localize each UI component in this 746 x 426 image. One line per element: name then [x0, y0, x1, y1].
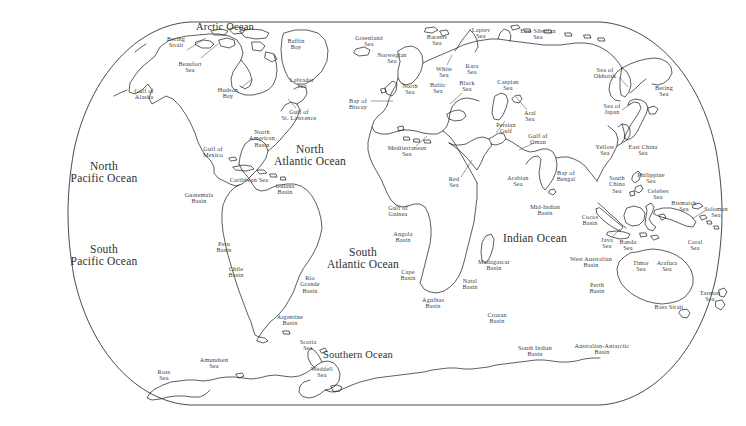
label-peru-basin: PeruBasin	[216, 241, 231, 254]
label-line: Sea	[300, 345, 317, 351]
label-line: Southern Ocean	[323, 349, 393, 360]
label-caribbean-sea: Caribbean Sea	[230, 177, 269, 183]
label-yellow-sea: YellowSea	[596, 144, 615, 157]
label-guiana-basin: GuianaBasin	[275, 183, 294, 196]
label-line: Basin	[462, 284, 477, 290]
label-line: Indian Ocean	[503, 232, 567, 244]
label-ross-sea: RossSea	[158, 369, 171, 382]
label-gulf-of-st-lawrence: Gulf ofSt. Lawrence	[281, 109, 316, 122]
label-line: Sea	[497, 85, 518, 91]
label-line: Sea	[700, 296, 720, 302]
label-caspian-sea: CaspianSea	[497, 79, 518, 92]
label-line: Basin	[575, 349, 630, 355]
label-baltic-sea: BalticSea	[430, 82, 446, 95]
label-line: Sea	[620, 245, 637, 251]
label-north-american-basin: NorthAmericanBasin	[249, 129, 275, 148]
label-east-siberian-sea: East SiberianSea	[520, 28, 555, 41]
label-labrador-sea: LabradorSea	[290, 77, 314, 90]
label-indian-ocean: Indian Ocean	[503, 232, 567, 244]
label-scotia-sea: ScotiaSea	[300, 339, 317, 352]
label-sea-of-okhotsk: Sea ofOkhotsk	[594, 67, 616, 80]
label-line: Sea	[657, 266, 678, 272]
label-argentine-basin: ArgentineBasin	[277, 314, 303, 327]
label-line: Sea	[704, 212, 728, 218]
label-line: Guinea	[388, 211, 407, 217]
label-line: Sea	[671, 206, 696, 212]
label-west-australian-basin: West AustralianBasin	[570, 256, 612, 269]
world-map: Arctic OceanNorthPacific OceanSouthPacif…	[0, 0, 746, 426]
label-line: Basin	[530, 210, 560, 216]
label-line: Basin	[400, 275, 415, 281]
label-line: Sea	[430, 88, 446, 94]
label-arctic-ocean: Arctic Ocean	[196, 21, 254, 32]
label-line: Sea	[629, 150, 658, 156]
label-line: Sea	[648, 194, 669, 200]
label-line: Biscay	[349, 104, 367, 110]
label-laptev-sea: LaptevSea	[472, 27, 490, 40]
label-black-sea: BlackSea	[459, 80, 474, 93]
label-line: Bay	[288, 44, 305, 50]
label-line: Oman	[528, 139, 547, 145]
label-tasman-sea: TasmanSea	[700, 290, 720, 303]
label-bering-sea: BeringSea	[655, 85, 673, 98]
label-java-sea: JavaSea	[601, 237, 613, 250]
label-line: Sea	[601, 243, 613, 249]
label-line: Basin	[582, 220, 598, 226]
label-line: St. Lawrence	[281, 115, 316, 121]
label-bass-strait: Bass Strait	[655, 304, 684, 310]
label-rio-grande-basin: RioGrandeBasin	[300, 275, 319, 294]
label-cocos-basin: CocosBasin	[582, 214, 598, 227]
label-line: Sea	[158, 375, 171, 381]
label-line: Basin	[518, 351, 552, 357]
label-coral-sea: CoralSea	[688, 239, 703, 252]
label-baffin-bay: BaffinBay	[288, 38, 305, 51]
label-gulf-of-guinea: Gulf ofGuinea	[388, 205, 407, 218]
label-line: Sea	[388, 151, 427, 157]
label-line: Basin	[249, 141, 275, 147]
label-line: Basin	[275, 189, 294, 195]
label-line: Sea	[436, 72, 452, 78]
label-line: North	[71, 160, 138, 172]
label-perth-basin: PerthBasin	[589, 282, 604, 295]
label-line: Sea	[311, 372, 333, 378]
label-banda-sea: BandaSea	[620, 239, 637, 252]
label-solomon-sea: SolomonSea	[704, 206, 728, 219]
leader-hudson-bay	[241, 79, 252, 88]
label-chile-basin: ChileBasin	[228, 266, 243, 279]
label-north-atlantic-ocean: NorthAtlantic Ocean	[274, 143, 346, 168]
label-white-sea: WhiteSea	[436, 66, 452, 79]
label-madagascar-basin: MadagascarBasin	[478, 259, 510, 272]
label-south-china-sea: SouthChinaSea	[609, 175, 625, 194]
label-weddell-sea: WeddellSea	[311, 366, 333, 379]
label-guatemala-basin: GuatemalaBasin	[185, 192, 214, 205]
label-australian-antarctic-basin: Australian-AntarcticBasin	[575, 343, 630, 356]
label-greenland-sea: GreenlandSea	[355, 35, 383, 48]
label-line: Sea	[655, 91, 673, 97]
label-natal-basin: NatalBasin	[462, 278, 477, 291]
label-norwegian-sea: NorwegianSea	[377, 52, 406, 65]
label-red-sea: RedSea	[449, 176, 460, 189]
label-line: Sea	[507, 181, 528, 187]
coastlines	[114, 25, 727, 400]
label-line: Sea	[637, 178, 664, 184]
label-bismarck-sea: BismarckSea	[671, 200, 696, 213]
label-line: Sea	[609, 187, 625, 193]
label-southern-ocean: Southern Ocean	[323, 349, 393, 360]
label-north-pacific-ocean: NorthPacific Ocean	[71, 160, 138, 185]
label-line: Basin	[228, 272, 243, 278]
label-celebes-sea: CelebesSea	[648, 188, 669, 201]
label-barents-sea: BarentsSea	[427, 34, 447, 47]
label-line: Bengal	[557, 176, 576, 182]
label-bay-of-biscay: Bay ofBiscay	[349, 98, 367, 111]
label-line: Mexico	[203, 152, 223, 158]
label-line: Sea	[633, 266, 649, 272]
label-line: Sea	[178, 67, 201, 73]
map-canvas	[0, 0, 746, 426]
leader-sea-of-japan	[622, 104, 631, 110]
label-line: Sea	[466, 69, 479, 75]
label-arabian-sea: ArabianSea	[507, 175, 528, 188]
label-philippine-sea: PhilippineSea	[637, 172, 664, 185]
label-line: Sea	[524, 116, 536, 122]
label-line: Basin	[277, 320, 303, 326]
label-aral-sea: AralSea	[524, 110, 536, 123]
